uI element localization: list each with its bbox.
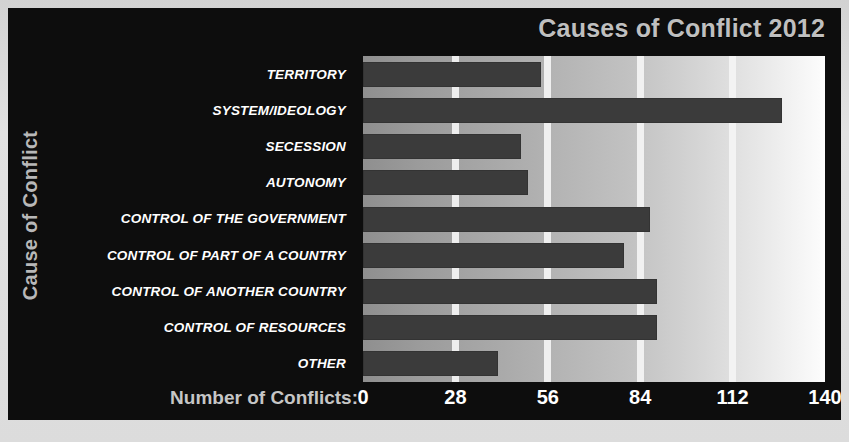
y-axis-tick-label: AUTONOMY — [48, 175, 355, 190]
chart-body: TERRITORY SYSTEM/IDEOLOGY SECESSION AUTO… — [48, 56, 841, 382]
y-axis-tick-label: CONTROL OF ANOTHER COUNTRY — [48, 284, 355, 299]
x-axis-tick-label: 56 — [537, 386, 559, 409]
y-axis-tick-label: OTHER — [48, 356, 355, 371]
plot-area — [363, 56, 825, 382]
bar — [363, 279, 657, 304]
bar — [363, 134, 521, 159]
y-axis-title-text: Cause of Conflict — [20, 130, 43, 300]
y-axis-tick-label: SECESSION — [48, 139, 355, 154]
chart-title: Causes of Conflict 2012 — [538, 14, 825, 43]
chart-panel: Causes of Conflict 2012 Cause of Conflic… — [8, 8, 841, 420]
y-axis-tick-label: CONTROL OF THE GOVERNMENT — [48, 211, 355, 226]
y-axis-tick-label: TERRITORY — [48, 67, 355, 82]
x-axis-tick-label: 140 — [808, 386, 841, 409]
y-axis-tick-label: CONTROL OF RESOURCES — [48, 320, 355, 335]
x-axis-tick-label: 0 — [357, 386, 368, 409]
bar — [363, 98, 782, 123]
y-axis-tick-label: CONTROL OF PART OF A COUNTRY — [48, 248, 355, 263]
y-axis-tick-label: SYSTEM/IDEOLOGY — [48, 103, 355, 118]
x-axis-tick-label: 28 — [444, 386, 466, 409]
page-background: Causes of Conflict 2012 Cause of Conflic… — [0, 0, 849, 442]
bar — [363, 243, 624, 268]
bar — [363, 351, 498, 376]
x-axis-tick-label: 112 — [716, 386, 748, 409]
x-axis-title: Number of Conflicts: — [158, 387, 358, 409]
y-axis-title: Cause of Conflict — [14, 60, 48, 370]
bar — [363, 207, 650, 232]
x-axis-tick-label: 84 — [629, 386, 651, 409]
bar — [363, 62, 541, 87]
bar — [363, 315, 657, 340]
x-axis: Number of Conflicts: 0285684112140 — [8, 384, 841, 416]
source-caption — [0, 420, 849, 442]
bar — [363, 170, 528, 195]
